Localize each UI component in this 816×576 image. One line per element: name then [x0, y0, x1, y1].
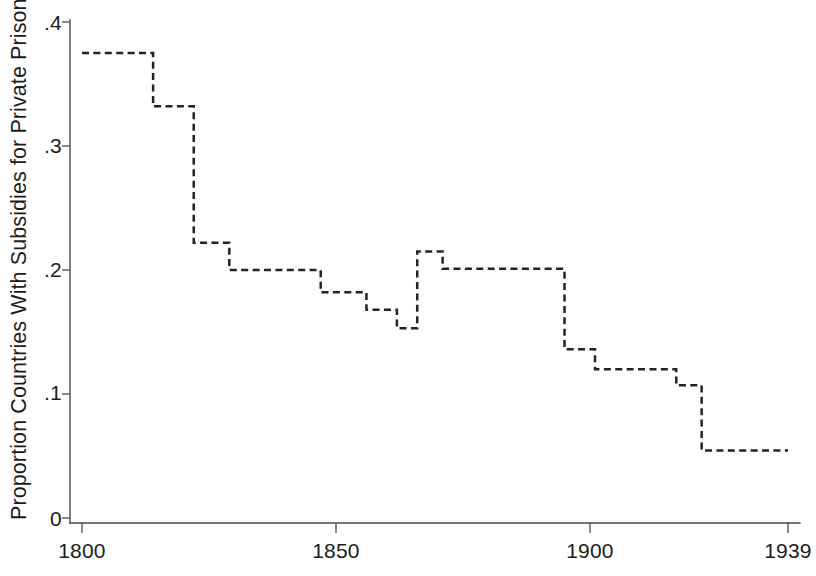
- data-series-line: [82, 53, 788, 450]
- y-axis-label: Proportion Countries With Subsidies for …: [7, 0, 31, 520]
- y-tick-label-2: .2: [44, 258, 62, 281]
- x-tick-label-1939: 1939: [764, 539, 812, 562]
- chart-figure: Proportion Countries With Subsidies for …: [0, 0, 816, 576]
- x-tick-label-1900: 1900: [566, 539, 614, 562]
- x-tick-label-1850: 1850: [312, 539, 360, 562]
- y-tick-label-4: .4: [44, 11, 62, 34]
- x-tick-label-1800: 1800: [58, 539, 106, 562]
- y-tick-label-1: .1: [44, 381, 62, 404]
- line-chart-plot: Proportion Countries With Subsidies for …: [0, 0, 816, 576]
- y-tick-label-0: 0: [50, 507, 62, 530]
- y-tick-label-3: .3: [44, 134, 62, 157]
